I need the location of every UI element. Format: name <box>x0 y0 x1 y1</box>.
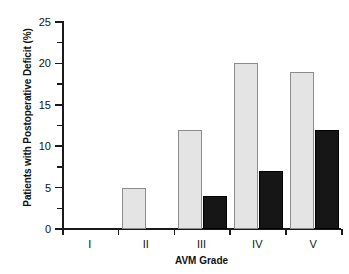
y-tick-label: 10 <box>39 140 51 152</box>
x-axis-title: AVM Grade <box>62 255 341 266</box>
y-tick-minor <box>57 166 62 168</box>
bar-iv-light <box>234 63 258 229</box>
bars-layer <box>63 22 341 229</box>
y-tick-major: 10 <box>55 145 62 147</box>
bar-ii-light <box>122 188 146 229</box>
y-tick-major: 25 <box>55 21 62 23</box>
y-tick-label: 0 <box>45 223 51 235</box>
bar-chart: Patients with Postoperative Deficit (%) … <box>0 0 349 274</box>
x-tick-label-ii: II <box>118 238 174 250</box>
x-tick <box>341 229 343 235</box>
x-tick-label-v: V <box>285 238 341 250</box>
y-tick-minor <box>57 42 62 44</box>
x-tick <box>118 229 120 235</box>
y-tick-minor <box>57 83 62 85</box>
bar-v-dark <box>315 130 339 229</box>
y-tick-label: 25 <box>39 16 51 28</box>
x-tick-label-iii: III <box>174 238 230 250</box>
y-tick-major: 15 <box>55 104 62 106</box>
x-tick <box>174 229 176 235</box>
x-tick <box>229 229 231 235</box>
y-tick-major: 20 <box>55 63 62 65</box>
bar-iv-dark <box>259 171 283 229</box>
y-tick-label: 5 <box>45 182 51 194</box>
x-tick <box>62 229 64 235</box>
bar-iii-light <box>178 130 202 229</box>
x-tick <box>285 229 287 235</box>
y-tick-major: 5 <box>55 187 62 189</box>
y-tick-label: 15 <box>39 99 51 111</box>
x-tick-label-i: I <box>62 238 118 250</box>
bar-v-light <box>290 72 314 229</box>
y-tick-minor <box>57 208 62 210</box>
y-tick-minor <box>57 125 62 127</box>
y-tick-major: 0 <box>55 228 62 230</box>
bar-iii-dark <box>203 196 227 229</box>
y-axis-title: Patients with Postoperative Deficit (%) <box>22 13 33 223</box>
x-tick-label-iv: IV <box>229 238 285 250</box>
y-tick-label: 20 <box>39 57 51 69</box>
